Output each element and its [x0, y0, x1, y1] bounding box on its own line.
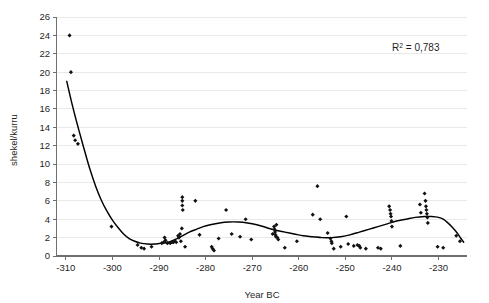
y-tick-label-2: 2: [45, 232, 50, 243]
r-squared-annotation: R2 = 0,783: [392, 42, 440, 53]
x-tick-label--300: -300: [103, 262, 122, 273]
x-tick-label--310: -310: [56, 262, 75, 273]
scatter-plot: 02468101214161820222426 -310-300-290-280…: [0, 0, 489, 303]
x-tick-label--240: -240: [382, 262, 401, 273]
x-axis-tick-labels: -310-300-290-280-270-260-250-240-230: [56, 262, 448, 273]
y-tick-label-12: 12: [39, 140, 50, 151]
y-tick-label-26: 26: [39, 11, 50, 22]
y-tick-label-0: 0: [45, 250, 50, 261]
y-tick-label-20: 20: [39, 67, 50, 78]
x-axis-title: Year BC: [244, 289, 279, 300]
y-tick-label-24: 24: [39, 30, 50, 41]
y-tick-label-22: 22: [39, 48, 50, 59]
x-tick-label--280: -280: [196, 262, 215, 273]
x-tick-label--250: -250: [336, 262, 355, 273]
y-tick-label-8: 8: [45, 177, 50, 188]
y-tick-label-18: 18: [39, 85, 50, 96]
r-symbol: R: [392, 42, 399, 53]
y-axis-title: shekel/kurru: [8, 114, 19, 166]
y-tick-label-4: 4: [45, 214, 50, 225]
x-tick-label--290: -290: [149, 262, 168, 273]
y-tick-label-10: 10: [39, 158, 50, 169]
chart-container: 02468101214161820222426 -310-300-290-280…: [0, 0, 489, 303]
x-tick-label--270: -270: [243, 262, 262, 273]
y-tick-label-6: 6: [45, 195, 50, 206]
r-value: = 0,783: [403, 42, 440, 53]
x-tick-label--230: -230: [429, 262, 448, 273]
x-tick-label--260: -260: [289, 262, 308, 273]
y-tick-label-14: 14: [39, 122, 50, 133]
y-tick-label-16: 16: [39, 103, 50, 114]
